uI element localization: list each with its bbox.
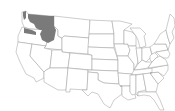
state-ms (130, 75, 136, 95)
state-mt (54, 16, 90, 38)
state-ut (50, 50, 70, 68)
state-co (68, 53, 92, 70)
state-nm (66, 68, 88, 92)
state-sd (88, 34, 114, 48)
state-fl (138, 92, 164, 110)
state-ks (92, 59, 118, 71)
state-wy (62, 36, 89, 54)
state-ne (88, 47, 118, 60)
state-nd (89, 20, 114, 34)
state-az (44, 68, 68, 90)
state-ia (114, 44, 130, 56)
us-map (0, 0, 175, 111)
